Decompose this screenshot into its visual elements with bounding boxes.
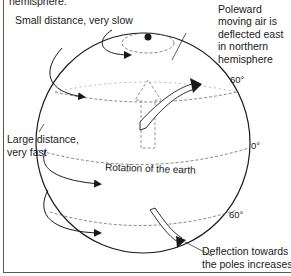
leader-poleward [172,33,186,60]
deflected-arrow-north [140,84,195,130]
rotation-arrow-60s [44,190,100,233]
deflection-label: Deflection towards the poles increases. [202,245,291,270]
equator-label: 0° [251,140,260,151]
latitude-60s [50,210,237,226]
top-cut-text: hemisphere. [9,0,67,8]
leader-large-distance [39,124,44,132]
rotation-arrow-pole [102,30,130,55]
poleward-label: Poleward moving air is deflected east in… [218,3,283,65]
north-pole-dot [145,34,152,41]
small-distance-label: Small distance, very slow [15,14,133,27]
latitude-60n-label: 60° [230,74,244,85]
latitude-60s-label: 60° [229,209,243,220]
large-distance-label: Large distance, very fast [7,133,79,158]
